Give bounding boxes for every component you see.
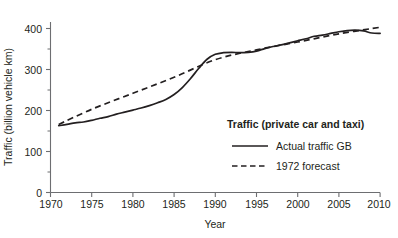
traffic-line-chart: 400 300 200 100 0 1970 1975 1980 1985 19… [0, 0, 398, 238]
series-line-actual-traffic-gb [59, 30, 380, 126]
y-axis-ticks [46, 29, 51, 193]
x-tick-label-1975: 1975 [80, 198, 104, 210]
x-tick-label-1995: 1995 [245, 198, 269, 210]
x-tick-label-1990: 1990 [203, 198, 227, 210]
series-line-1972-forecast [59, 27, 380, 124]
y-tick-label-300: 300 [24, 64, 42, 76]
x-tick-label-2000: 2000 [286, 198, 310, 210]
legend-label-1972-forecast: 1972 forecast [276, 160, 340, 172]
chart-container: 400 300 200 100 0 1970 1975 1980 1985 19… [0, 0, 398, 238]
x-tick-label-2010: 2010 [367, 198, 391, 210]
y-axis-title: Traffic (billion vehicle km) [2, 48, 14, 166]
y-tick-label-200: 200 [24, 105, 42, 117]
y-tick-label-400: 400 [24, 23, 42, 35]
y-axis-tick-labels: 400 300 200 100 0 [24, 23, 42, 199]
y-tick-label-0: 0 [36, 187, 42, 199]
x-axis-title: Year [204, 218, 226, 230]
x-tick-label-1970: 1970 [39, 198, 63, 210]
x-tick-label-1985: 1985 [162, 198, 186, 210]
legend-title: Traffic (private car and taxi) [227, 118, 364, 130]
x-axis-ticks [51, 193, 381, 198]
legend-label-actual-traffic-gb: Actual traffic GB [276, 140, 352, 152]
x-tick-label-2005: 2005 [327, 198, 351, 210]
x-axis-tick-labels: 1970 1975 1980 1985 1990 1995 2000 2005 … [39, 198, 391, 210]
y-tick-label-100: 100 [24, 146, 42, 158]
series-group [59, 27, 380, 125]
legend: Traffic (private car and taxi) Actual tr… [227, 118, 364, 172]
x-tick-label-1980: 1980 [121, 198, 145, 210]
